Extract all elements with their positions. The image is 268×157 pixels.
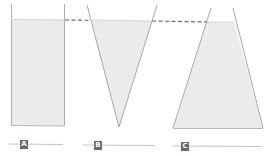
container-b bbox=[87, 5, 157, 127]
container-a-water bbox=[11, 19, 64, 126]
label-a: A bbox=[20, 140, 28, 149]
container-b-water bbox=[91, 20, 152, 127]
water-level-dashed-line bbox=[152, 21, 207, 22]
container-c bbox=[173, 8, 263, 129]
label-c: C bbox=[181, 142, 189, 151]
containers-diagram bbox=[0, 0, 268, 157]
baseline-a bbox=[9, 144, 63, 145]
container-a bbox=[11, 4, 65, 126]
label-b: B bbox=[94, 141, 102, 150]
